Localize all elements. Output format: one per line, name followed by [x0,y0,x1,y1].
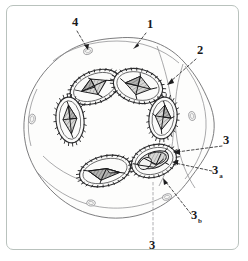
label-3b: 3 [191,208,197,222]
cell-outline [24,38,214,219]
diagram-canvas: 1 2 3 3 a 3 b 3 c 4 [7,6,238,249]
label-4: 4 [72,15,79,29]
label-3b-group: 3 b [191,208,202,225]
label-3b-subscript: b [198,217,202,225]
label-1: 1 [147,17,153,31]
cell-body [24,38,214,219]
label-3c: 3 [149,238,155,249]
label-3a-group: 3 a [212,163,223,180]
label-3c-subscript: c [156,247,159,249]
label-3c-group: 3 c [149,238,160,249]
figure-frame: 1 2 3 3 a 3 b 3 c 4 [6,5,239,250]
label-3a: 3 [212,163,218,177]
label-3: 3 [223,133,229,147]
label-2: 2 [197,43,203,57]
label-3a-subscript: a [219,172,223,180]
